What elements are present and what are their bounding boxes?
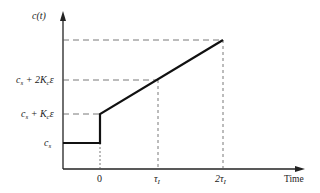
x-tick-2tau: 2τI: [215, 173, 227, 186]
axes: [60, 11, 305, 172]
y-tick-cs-plus-kc: cs + Kcε: [21, 108, 54, 121]
x-axis-label: Time: [284, 174, 304, 184]
reference-lines: [63, 40, 223, 169]
response-curve: [63, 40, 223, 143]
x-axis-arrow-icon: [295, 166, 305, 172]
y-tick-cs: cs: [44, 137, 51, 150]
x-tick-zero: 0: [97, 173, 102, 184]
y-axis-arrow-icon: [60, 11, 66, 21]
x-tick-tau: τI: [154, 173, 161, 186]
y-axis-label: c(t): [32, 10, 47, 22]
y-tick-cs-plus-2kc: cs + 2Kcε: [16, 74, 54, 87]
pi-controller-response-chart: c(t) cs cs + Kcε cs + 2Kcε 0 τI 2τI Time: [0, 0, 320, 193]
